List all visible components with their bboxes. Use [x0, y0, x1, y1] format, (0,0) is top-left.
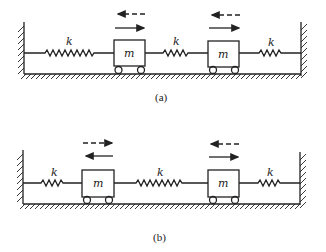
mass-2-arrows	[209, 15, 240, 28]
spring-3: k	[239, 36, 301, 56]
spring-2: k	[145, 35, 208, 56]
spring-1-label: k	[51, 166, 58, 179]
mass-1-arrows	[115, 14, 145, 28]
floor	[21, 74, 301, 79]
spring-2-label: k	[157, 166, 164, 179]
spring-3-label: k	[267, 166, 274, 179]
mass-2: m	[208, 41, 239, 74]
mass-1-label: m	[93, 177, 103, 190]
left-wall	[17, 150, 23, 204]
mass-1-label: m	[124, 47, 134, 60]
mass-1-arrows	[83, 143, 113, 156]
spring-2: k	[114, 166, 208, 186]
spring-3-label: k	[268, 36, 275, 49]
wheel-icon	[138, 67, 145, 74]
panel-a: k m k m	[18, 14, 307, 104]
mass-1: m	[82, 170, 114, 204]
mass-2: m	[208, 170, 239, 204]
right-wall	[301, 22, 307, 78]
spring-1-label: k	[66, 35, 73, 48]
wheel-icon	[115, 67, 122, 74]
spring-1: k	[24, 35, 114, 56]
panel-b-caption: (b)	[153, 231, 166, 244]
mass-2-arrows	[209, 144, 239, 157]
spring-1: k	[23, 166, 82, 186]
left-wall	[18, 22, 24, 74]
mass-1: m	[114, 40, 145, 74]
mass-2-label: m	[218, 177, 228, 190]
two-mass-spring-system-diagram: k m k m	[0, 0, 326, 252]
spring-3: k	[239, 166, 300, 186]
panel-a-caption: (a)	[155, 91, 168, 104]
floor	[20, 204, 300, 209]
panel-b: k m k m	[17, 143, 306, 244]
right-wall	[300, 152, 306, 208]
mass-2-label: m	[218, 48, 228, 61]
spring-2-label: k	[173, 35, 180, 48]
